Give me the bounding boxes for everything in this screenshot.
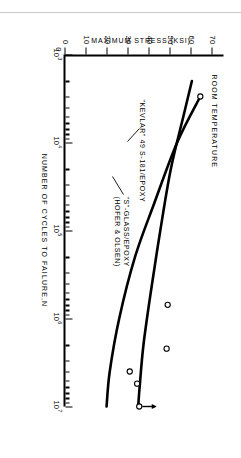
data-point-marker — [197, 93, 202, 98]
figure-plot-stage: 1031041051061070 010203040506070 NUMBER … — [0, 0, 241, 458]
data-point-marker — [165, 302, 170, 307]
figure-page: 1031041051061070 010203040506070 NUMBER … — [0, 0, 241, 458]
plot-artwork — [0, 0, 241, 458]
runout-arrow-head — [151, 403, 156, 408]
sglass-leader-line — [112, 176, 123, 194]
kevlar-leader-line — [127, 128, 139, 141]
data-point-marker — [164, 346, 169, 351]
series-curve-2 — [106, 96, 200, 406]
leader-lines — [112, 128, 139, 194]
series-curves — [106, 80, 200, 406]
data-point-marker — [134, 381, 139, 386]
data-point-marker — [127, 368, 132, 373]
data-point-marker — [136, 403, 141, 408]
